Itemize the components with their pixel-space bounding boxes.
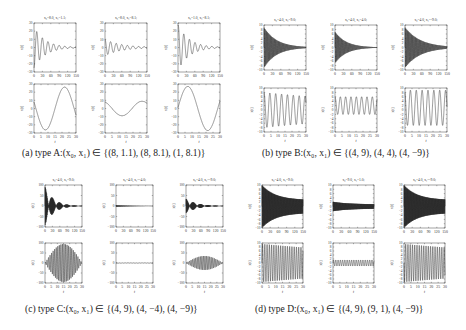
x-tick-label: 0 [332,285,334,289]
y-tick-label: −6 [328,218,332,222]
y-tick-label: −4 [259,117,263,121]
y-tick-label: 10 [29,38,33,42]
plot-frame [178,84,220,133]
y-tick-label: −30 [98,131,104,135]
x-tick-label: 0 [44,229,46,233]
plot-panel: −30−20−100102030051015202530x(t)t [91,82,149,144]
y-tick-label: 20 [173,29,177,33]
data-series [34,87,76,130]
x-tick-label: 0 [261,230,263,234]
y-tick-label: 50 [40,251,44,255]
x-tick-label: 0 [104,135,106,139]
x-axis-label: t [204,290,206,294]
x-tick-label: 120 [363,230,369,234]
x-tick-label: 20 [431,134,435,138]
y-tick-label: 0 [332,108,334,112]
y-tick-label: −30 [27,70,33,74]
data-series [333,202,374,211]
y-tick-label: 50 [40,194,44,198]
y-tick-label: 10 [400,23,404,27]
y-tick-label: 0 [113,204,115,208]
y-tick-label: 0 [330,205,332,209]
x-tick-label: 10 [416,285,420,289]
panel-title: x₀=4.0, x₁=9.0; [53,178,75,183]
y-tick-label: −100 [37,225,44,229]
x-axis-label: t [284,139,286,143]
subfigure-b: x₀=4.0, x₁=9.0;−10−8−6−4−202468100306090… [250,18,450,143]
y-tick-label: −50 [38,271,44,275]
y-axis-label: x(t) [102,260,106,266]
y-tick-label: 6 [332,32,334,36]
y-tick-label: 50 [111,251,115,255]
y-tick-label: 10 [399,241,403,245]
panel-title: x₀=4.0, x₁=9.0; [274,18,296,23]
y-tick-label: −50 [38,215,44,219]
x-tick-label: 30 [122,229,126,233]
y-tick-label: 0 [401,261,403,265]
y-tick-label: 0 [175,107,177,111]
x-tick-label: 10 [55,285,59,289]
y-tick-label: 10 [330,23,334,27]
y-tick-label: −6 [400,121,404,125]
y-tick-label: −6 [259,59,263,63]
y-axis-label: x(t) [391,44,395,50]
x-tick-label: 90 [136,229,140,233]
x-tick-label: 30 [271,72,275,76]
x-tick-label: 30 [51,229,55,233]
caption-text: type A:(x₀, x₁) ∈ {(8, 1.1), (8, 8.1), (… [35,148,205,158]
data-series [264,28,306,67]
x-tick-label: 120 [292,230,298,234]
y-tick-label: −8 [259,64,263,68]
x-tick-label: 5 [40,135,42,139]
y-tick-label: 4 [330,196,332,200]
plot-frame [105,84,147,133]
data-series [335,32,377,62]
x-tick-label: 150 [444,72,450,76]
x-tick-label: 30 [74,135,78,139]
y-tick-label: 2 [259,257,261,261]
y-tick-label: 6 [261,95,263,99]
y-axis-label: x(t) [31,260,35,266]
x-tick-label: 30 [192,229,196,233]
x-tick-label: 0 [263,134,265,138]
plot-frame [178,23,220,72]
y-tick-label: 0 [31,107,33,111]
y-tick-label: −30 [98,70,104,74]
y-tick-label: 4 [332,99,334,103]
x-tick-label: 60 [420,72,424,76]
y-axis-label: x(t) [172,260,176,266]
data-series [262,186,303,228]
x-tick-label: 15 [424,134,428,138]
plot-panel: x₀=4.0, x₁=-4.0;−100−5005010003060901201… [102,178,156,233]
y-tick-label: 6 [401,249,403,253]
data-series [405,90,447,125]
x-tick-label: 5 [184,135,186,139]
data-series [45,244,82,282]
x-tick-label: 60 [348,230,352,234]
y-tick-label: −20 [171,62,177,66]
y-axis-label: x(t) [319,203,323,209]
x-tick-label: 0 [263,72,265,76]
x-tick-label: 150 [150,229,156,233]
y-tick-label: −10 [328,68,334,72]
plot-panel: −30−20−100102030051015202530x(t)t [164,82,222,144]
y-tick-label: 8 [259,188,261,192]
y-tick-label: −8 [399,277,403,281]
data-series [105,101,147,116]
y-tick-label: 100 [109,183,114,187]
y-tick-label: 8 [332,91,334,95]
y-axis-label: x(t) [390,260,394,266]
y-tick-label: 8 [402,28,404,32]
x-tick-label: 15 [133,285,137,289]
y-tick-label: 6 [261,32,263,36]
data-series [262,244,303,282]
y-tick-label: −10 [27,115,33,119]
x-tick-label: 5 [411,134,413,138]
y-tick-label: −20 [98,123,104,127]
y-tick-label: 6 [402,32,404,36]
x-tick-label: 10 [196,285,200,289]
x-tick-label: 25 [368,134,372,138]
plot-panel: −10−8−6−4−20246810051015202530x(t)t [250,86,308,143]
x-tick-label: 60 [49,74,53,78]
y-tick-label: −2 [259,113,263,117]
